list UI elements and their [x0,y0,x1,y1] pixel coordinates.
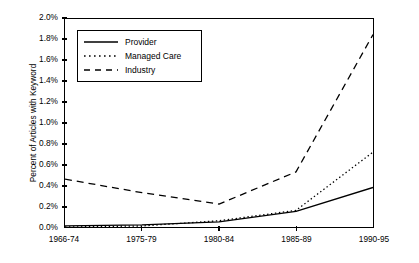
y-axis-tick-label: 1.6% [22,55,58,64]
y-axis-tick-label: 1.2% [22,97,58,106]
legend-item: Industry [83,63,196,77]
y-axis-tick-label: 0.4% [22,181,58,190]
legend-key-dashed-icon [83,64,119,76]
legend-label: Provider [125,36,157,48]
legend-label: Managed Care [125,50,181,62]
x-axis-tick-label: 1966-74 [29,234,99,244]
x-axis-tick-mark [141,226,142,231]
y-axis-tick-label: 0.0% [22,223,58,232]
series-line-provider [65,187,373,225]
x-axis-tick-label: 1985-89 [262,234,332,244]
y-axis-title-wrap: Percent of Articles with Keyword [18,18,19,228]
y-axis-tick-label: 0.2% [22,202,58,211]
y-axis-tick-label: 0.8% [22,139,58,148]
series-line-managed-care [65,152,373,227]
legend-key-dotted-icon [83,50,119,62]
y-axis-tick-label: 1.8% [22,34,58,43]
x-axis-tick-mark [218,226,219,231]
y-axis-tick-label: 2.0% [22,13,58,22]
chart-legend: Provider Managed Care Industry [77,30,202,82]
x-axis-tick-mark [296,226,297,231]
legend-item: Provider [83,35,196,49]
legend-label: Industry [125,64,155,76]
x-axis-tick-label: 1975-79 [107,234,177,244]
x-axis-tick-label: 1980-84 [184,234,254,244]
y-axis-tick-label: 0.6% [22,160,58,169]
legend-item: Managed Care [83,49,196,63]
y-axis-tick-label: 1.0% [22,118,58,127]
chart-container: Percent of Articles with Keyword 0.0%0.2… [0,0,419,263]
legend-key-solid-icon [83,36,119,48]
x-axis-tick-label: 1990-95 [339,234,409,244]
y-axis-tick-label: 1.4% [22,76,58,85]
